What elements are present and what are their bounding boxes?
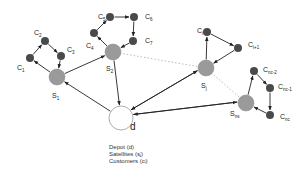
customer-node-c7 [129,37,137,45]
route-arrow [114,60,119,105]
customer-label-c4: C4 [86,42,94,51]
customer-label-c2: C2 [34,29,42,38]
route-arrow [59,60,60,68]
route-arrow [121,43,129,47]
route-edges [33,17,270,115]
dotted-connections [113,52,246,103]
customer-node-c4 [90,29,98,37]
customer-label-cnc1: Cnc-1 [278,83,292,92]
customer-label-c6: C6 [145,13,153,22]
customer-node-c3 [57,52,65,60]
legend: Depot (d) Satellites (sⱼ) Customers (cᵢ) [109,144,148,165]
route-arrow [98,37,107,46]
customer-node-cnc1 [266,84,274,92]
route-arrow [214,50,235,63]
customer-label-cnc2: Cnc-2 [263,66,277,75]
route-arrow [48,44,57,53]
satellite-node-s2 [105,44,121,60]
satellite-label-sns: Sns [230,110,240,119]
customer-node-c6 [130,13,138,21]
satellite-node-sj [198,60,214,76]
route-arrow [248,76,253,95]
depot-label: d [130,121,136,132]
customer-label-ci: Ci [197,27,203,36]
customer-label-cnc: Cnc [280,113,291,122]
customer-label-c5: C5 [98,13,106,22]
route-arrow [134,102,238,114]
customer-node-ci1 [234,44,242,52]
route-arrow [211,34,234,46]
customer-node-c2 [41,37,49,45]
route-arrow [65,56,105,74]
customer-node-c1 [26,54,34,62]
customer-label-c7: C7 [145,37,153,46]
routing-network-diagram: S1S2SjSnsC1C2C3C4C5C6C7CiCi+1Cnc-2Cnc-1C… [0,0,305,171]
customer-node-c5 [106,13,114,21]
route-arrow [33,45,42,55]
satellite-label-sj: Sj [201,82,207,91]
satellite-label-s1: S1 [52,92,60,101]
route-arrow [254,107,266,113]
satellite-node-s1 [49,69,65,85]
legend-depot: Depot (d) [109,144,148,151]
customer-label-c3: C3 [67,46,75,55]
satellite-node-sns [238,95,254,111]
legend-satellites: Satellites (sⱼ) [109,151,148,158]
customer-node-ci [203,28,211,36]
customer-label-c1: C1 [17,64,25,73]
customer-node-cnc [266,111,274,119]
customer-label-ci1: Ci+1 [248,41,260,50]
route-arrow [133,21,134,36]
customer-node-cnc2 [250,67,258,75]
route-arrow [131,71,197,110]
route-arrow [206,37,207,60]
route-arrow [257,74,266,84]
route-arrow [34,61,50,72]
satellite-label-s2: S2 [106,65,114,74]
legend-customers: Customers (cᵢ) [109,158,148,165]
dotted-link [113,52,206,68]
route-arrow [65,82,111,111]
route-arrow [97,21,106,30]
